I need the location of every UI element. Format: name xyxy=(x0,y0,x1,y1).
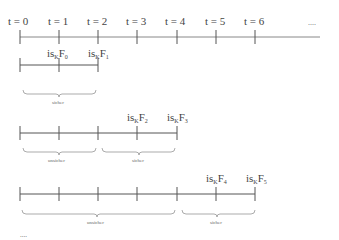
trailing-ellipsis: .... xyxy=(20,231,27,239)
brace-label-unsicher: unsicher xyxy=(87,220,104,225)
event-label-F5: isKF5 xyxy=(246,172,267,185)
time-labels: t = 0 t = 1 t = 2 t = 3 t = 4 t = 5 t = … xyxy=(8,15,316,27)
brace-unsicher xyxy=(22,210,175,217)
row-3: isKF4 isKF5 unsicher sicher xyxy=(20,172,267,225)
time-label-0: t = 0 xyxy=(8,15,29,27)
event-label-F0: isKF0 xyxy=(47,47,68,60)
main-timeline xyxy=(20,30,320,44)
timeline-diagram: t = 0 t = 1 t = 2 t = 3 t = 4 t = 5 t = … xyxy=(0,0,339,240)
brace-label-sicher: sicher xyxy=(52,100,64,105)
brace-sicher xyxy=(102,148,175,155)
time-label-1: t = 1 xyxy=(48,15,68,27)
event-label-F3: isKF3 xyxy=(167,111,188,124)
time-label-6: t = 6 xyxy=(244,15,265,27)
time-label-3: t = 3 xyxy=(126,15,147,27)
row-2: isKF2 isKF3 unsicher sicher xyxy=(20,111,188,163)
brace-label-sicher: sicher xyxy=(132,158,144,163)
brace-label-sicher: sicher xyxy=(210,220,222,225)
event-label-F2: isKF2 xyxy=(127,111,148,124)
timeline-ellipsis: .... xyxy=(308,18,316,27)
time-label-5: t = 5 xyxy=(205,15,226,27)
row-1: isKF0 isKF1 sicher xyxy=(20,47,109,105)
event-label-F1: isKF1 xyxy=(88,47,109,60)
time-label-2: t = 2 xyxy=(87,15,107,27)
brace-sicher xyxy=(182,210,255,217)
time-label-4: t = 4 xyxy=(165,15,186,27)
event-label-F4: isKF4 xyxy=(206,172,227,185)
brace-unsicher xyxy=(23,148,96,155)
brace-sicher xyxy=(23,90,96,97)
brace-label-unsicher: unsicher xyxy=(48,158,65,163)
